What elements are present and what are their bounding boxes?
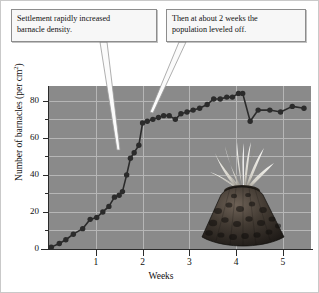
y-axis-label-exponent: 2 [12, 66, 19, 69]
data-point [145, 118, 150, 123]
plot-area [49, 86, 311, 249]
barnacle-population-figure: 020406080 12345 Number of barnacles (per… [0, 0, 319, 293]
data-point [197, 106, 202, 111]
x-ticklabel-5: 5 [275, 257, 291, 267]
data-point [128, 156, 133, 161]
data-point [57, 241, 62, 246]
y-axis-label-text: Number of barnacles (per cm [14, 70, 24, 181]
data-point [230, 94, 235, 99]
data-point [224, 94, 229, 99]
x-tick-5 [283, 250, 284, 256]
x-axis-label: Weeks [121, 271, 201, 281]
data-point [136, 143, 141, 148]
y-tick-40 [43, 175, 48, 176]
data-point [301, 106, 306, 111]
y-tick-0 [43, 249, 48, 250]
y-tick-20 [43, 212, 48, 213]
y-tick-80 [43, 101, 48, 102]
x-tick-2 [143, 250, 144, 256]
data-point [63, 237, 68, 242]
y-tick-minor-10 [45, 230, 48, 231]
y-tick-minor-50 [45, 156, 48, 157]
callout-2-line-2: population leveled off. [172, 24, 301, 35]
y-ticklabel-20: 20 [15, 206, 39, 216]
x-ticklabel-4: 4 [228, 257, 244, 267]
y-ticklabel-0: 0 [15, 243, 39, 253]
y-tick-60 [43, 138, 48, 139]
data-point [190, 107, 195, 112]
data-point [218, 96, 223, 101]
x-ticklabel-3: 3 [181, 257, 197, 267]
data-point [278, 109, 283, 114]
data-point [167, 113, 172, 118]
y-tick-minor-30 [45, 193, 48, 194]
x-ticklabel-1: 1 [88, 257, 104, 267]
data-point [150, 117, 155, 122]
x-tick-4 [236, 250, 237, 256]
data-point [124, 172, 129, 177]
data-point [140, 120, 145, 125]
data-point [156, 115, 161, 120]
data-point [161, 113, 166, 118]
y-axis-label-suffix: ) [14, 63, 24, 66]
data-point [131, 150, 136, 155]
data-point [71, 231, 76, 236]
x-tick-3 [189, 250, 190, 256]
x-tick-1 [96, 250, 97, 256]
data-point [178, 111, 183, 116]
data-point [290, 104, 295, 109]
data-point [255, 107, 260, 112]
data-point [204, 102, 209, 107]
callout-leveled-off: Then at about 2 weeks the population lev… [166, 9, 306, 42]
y-tick-minor-70 [45, 119, 48, 120]
x-ticklabel-2: 2 [135, 257, 151, 267]
y-axis-label: Number of barnacles (per cm2) [12, 42, 24, 202]
callout-1-line-1: Settlement rapidly increased [17, 13, 152, 24]
data-point [106, 204, 111, 209]
data-point [247, 118, 252, 123]
data-point [240, 91, 245, 96]
data-point [80, 226, 85, 231]
callout-1-line-2: barnacle density. [17, 24, 152, 35]
barnacle-cirri [210, 142, 274, 190]
data-point [211, 96, 216, 101]
data-point [87, 217, 92, 222]
data-point [184, 109, 189, 114]
callout-2-line-1: Then at about 2 weeks the [172, 13, 301, 24]
y-axis-line [48, 86, 49, 250]
callout-settlement: Settlement rapidly increased barnacle de… [11, 9, 157, 42]
x-axis-line [41, 249, 313, 250]
data-point [100, 209, 105, 214]
data-point [120, 189, 125, 194]
data-point [173, 117, 178, 122]
data-point [94, 215, 99, 220]
barnacle-photo-inset [186, 125, 298, 247]
data-point [267, 107, 272, 112]
data-point [112, 194, 117, 199]
